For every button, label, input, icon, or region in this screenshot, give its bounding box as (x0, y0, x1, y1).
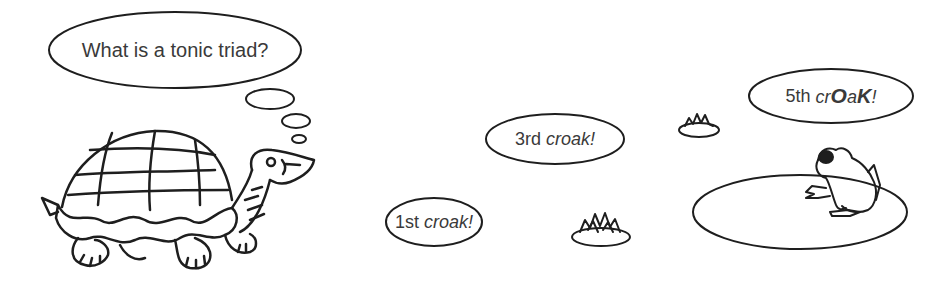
fifth-croak-text: 5th crOaK! (749, 82, 913, 110)
frog-illustration (806, 148, 880, 216)
lily-pad-icon (679, 114, 719, 137)
first-croak-text: 1st croak! (386, 208, 482, 236)
grass-tuft-icon (572, 213, 630, 246)
croak-ordinal: 1st (395, 212, 419, 233)
third-croak-text: 3rd croak! (486, 125, 624, 153)
croak-word: croak! (546, 129, 595, 150)
turtle-illustration (42, 131, 314, 268)
croak-ordinal: 5th (786, 86, 811, 107)
thought-bubble-icon (49, 12, 310, 143)
turtle-thought-text: What is a tonic triad? (55, 34, 295, 66)
thought-label: What is a tonic triad? (82, 39, 269, 62)
illustration-stage: What is a tonic triad? 1st croak! 3rd cr… (0, 0, 952, 281)
croak-word: crOaK! (816, 84, 877, 108)
croak-ordinal: 3rd (515, 129, 541, 150)
croak-word: croak! (424, 212, 473, 233)
